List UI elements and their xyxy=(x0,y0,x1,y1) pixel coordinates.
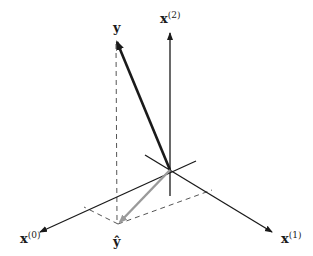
label-y: y xyxy=(112,20,121,35)
label-x2-sup: (2) xyxy=(168,10,181,20)
label-x0-sup: (0) xyxy=(28,230,41,240)
label-x0: x(0) xyxy=(20,230,41,246)
label-x2: x(2) xyxy=(160,10,181,26)
projection-diagram: y ŷ x(2) x(0) x(1) xyxy=(0,0,313,256)
label-x1: x(1) xyxy=(281,230,302,246)
dashed-vertical-drop xyxy=(116,44,117,222)
label-x1-sup: (1) xyxy=(289,230,302,240)
y-vector xyxy=(117,42,170,170)
x1-axis xyxy=(145,155,272,232)
dashed-to-x1-axis xyxy=(118,190,212,224)
label-y-hat: ŷ xyxy=(112,234,121,249)
